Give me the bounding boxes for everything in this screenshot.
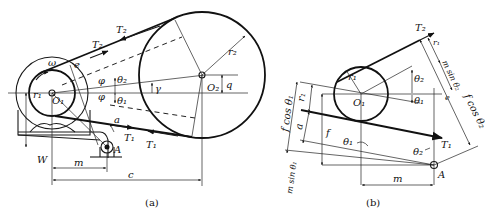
belt-tight-side [40, 18, 175, 73]
label-theta1-b: θ₁ [414, 95, 424, 106]
label-T1-left: T₁ [146, 139, 157, 150]
label-theta2: θ₂ [117, 74, 127, 85]
label-gamma: γ [155, 83, 161, 94]
label-r1-left: r₁ [295, 92, 307, 102]
label-e-b: e [445, 93, 450, 102]
line-to-A [285, 150, 434, 165]
label-r2: r₂ [228, 46, 237, 57]
label-r1-circle: r₁ [348, 71, 357, 82]
label-e: e [74, 59, 80, 70]
centers-line [52, 75, 205, 93]
label-m-sin-theta2: m sin θ₂ [440, 59, 462, 92]
label-T1-b: T₁ [441, 139, 452, 150]
label-c: c [128, 169, 134, 180]
label-r1-top: r₁ [433, 38, 440, 47]
label-m-sin-theta1: m sin θ₁ [285, 161, 298, 194]
label-theta1: θ₁ [117, 95, 127, 106]
theta2-line [361, 66, 412, 94]
label-O1: O₁ [52, 95, 64, 106]
r2-dimension [202, 36, 245, 75]
radius-upper [175, 20, 202, 75]
caption-a: (a) [145, 197, 159, 208]
figure-a: T₂ T₂ ω e φ φ θ₂ θ₁ γ r₁ O₁ O₂ q r₂ a T₁… [8, 12, 265, 208]
label-f-cos-theta2: f cos θ₂ [462, 91, 488, 130]
label-omega: ω [48, 57, 56, 68]
label-O2: O₂ [207, 82, 219, 93]
r1-left-dim [309, 85, 312, 112]
radius-lower [192, 75, 202, 136]
label-m: m [74, 157, 83, 168]
label-a-b: a [293, 123, 305, 130]
caption-b: (b) [366, 197, 380, 208]
figure-b: T₂ r₁ m sin θ₂ r₁ θ₂ O₁ θ₁ e f cos θ₂ f … [279, 22, 488, 208]
label-T2-b: T₂ [415, 22, 426, 33]
label-W: W [37, 154, 48, 165]
label-phi-lower: φ [98, 91, 105, 102]
label-theta1-lower: θ₁ [343, 136, 353, 147]
belt-drive-diagram: T₂ T₂ ω e φ φ θ₂ θ₁ γ r₁ O₁ O₂ q r₂ a T₁… [0, 0, 491, 217]
label-O1-b: O₁ [353, 97, 365, 108]
motor-frame [18, 110, 90, 135]
label-T1: T₁ [124, 132, 135, 143]
base-line [18, 135, 100, 140]
label-theta2-lower: θ₂ [413, 146, 423, 157]
label-r1: r₁ [33, 89, 42, 100]
label-A-b: A [437, 169, 445, 180]
label-m-b: m [393, 173, 402, 184]
theta2-lower-arc [425, 148, 430, 150]
label-T2: T₂ [92, 39, 103, 50]
dashed-lower [110, 105, 195, 118]
label-theta2-b: θ₂ [414, 73, 424, 84]
label-T2-left: T₂ [116, 24, 127, 35]
label-q: q [226, 79, 232, 90]
label-phi-upper: φ [98, 75, 105, 86]
label-a: a [114, 114, 120, 125]
theta1-lower-arc [357, 142, 368, 146]
T2-arrow-b [420, 33, 434, 40]
label-f: f [325, 127, 332, 138]
label-A: A [113, 144, 121, 155]
